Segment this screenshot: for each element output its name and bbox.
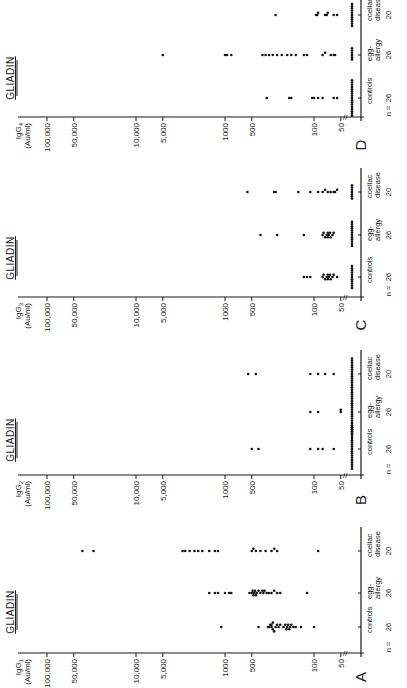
n-label: n = (384, 463, 393, 474)
data-point (276, 550, 279, 553)
axis-break-mark: // (343, 649, 348, 658)
data-point (351, 47, 354, 50)
data-point (193, 550, 196, 553)
data-point (188, 550, 191, 553)
data-point (332, 373, 335, 376)
data-point (309, 191, 312, 194)
data-point (317, 550, 320, 553)
data-point (264, 54, 267, 57)
data-point (290, 54, 293, 57)
data-point (329, 232, 332, 235)
data-point (92, 550, 95, 553)
data-point (273, 548, 276, 551)
group-label: controls (365, 256, 374, 283)
data-point (303, 276, 306, 279)
data-point (251, 590, 254, 593)
figure: //100,00050,00010,0005,000100050010050Ig… (0, 0, 407, 688)
axis-break-mark: // (343, 471, 348, 480)
tick-label: 500 (248, 658, 257, 672)
data-point (247, 373, 250, 376)
data-point (324, 236, 327, 239)
data-point (264, 550, 267, 553)
data-point (276, 624, 279, 627)
data-point (309, 448, 312, 451)
data-point (336, 189, 339, 192)
tick-label: 100,000 (43, 302, 52, 331)
axis-unit: (Au/ml) (23, 123, 32, 149)
data-point (331, 276, 334, 279)
panel-title: GLIADIN (5, 590, 16, 634)
data-point (351, 114, 354, 117)
data-point (324, 373, 327, 376)
group-n: 26 (384, 94, 393, 102)
data-point (317, 12, 320, 15)
group-n: 20 (384, 370, 393, 378)
data-point (306, 592, 309, 595)
group-label: controls (365, 428, 374, 455)
tick-label: 100,000 (43, 658, 52, 687)
tick-label: 100 (310, 122, 319, 136)
data-point (184, 550, 187, 553)
panel-c: //100,00050,00010,0005,000100050010050Ig… (5, 168, 393, 332)
tick-label: 50,000 (70, 302, 79, 327)
data-point (351, 197, 354, 200)
group-label-line2: allergy (373, 577, 382, 599)
panel-letter: C (352, 319, 369, 330)
tick-label: 100,000 (43, 122, 52, 151)
data-point (313, 97, 316, 100)
tick-label: 50,000 (70, 658, 79, 683)
tick-label: 10,000 (132, 658, 141, 683)
panel-d: //100,00050,00010,0005,000100050010050Ig… (5, 0, 393, 152)
data-point (295, 54, 298, 57)
panel-letter: A (352, 672, 369, 682)
group-n: 26 (384, 445, 393, 453)
data-point (317, 448, 320, 451)
data-point (286, 54, 289, 57)
data-point (284, 624, 287, 627)
data-point (265, 592, 268, 595)
data-point (324, 52, 327, 55)
data-point (270, 624, 273, 627)
group-label: controls (365, 77, 374, 104)
data-point (306, 54, 309, 57)
data-point (328, 234, 331, 237)
data-point (272, 621, 275, 624)
group-label-line2: allergy (373, 39, 382, 61)
group-n: 26 (384, 623, 393, 631)
group-label-line2: disease (373, 531, 382, 557)
data-point (255, 373, 258, 376)
data-point (274, 14, 277, 17)
data-point (332, 274, 335, 277)
data-point (327, 191, 330, 194)
tick-label: 500 (248, 122, 257, 136)
tick-label: 100,000 (43, 480, 52, 509)
data-point (329, 54, 332, 57)
data-point (351, 357, 354, 360)
data-point (181, 550, 184, 553)
data-point (268, 54, 271, 57)
data-point (254, 590, 257, 593)
data-point (214, 592, 217, 595)
data-point (162, 54, 165, 57)
data-point (217, 592, 220, 595)
tick-label: 500 (248, 302, 257, 316)
data-point (292, 626, 295, 629)
axis-unit: (Au/ml) (23, 481, 32, 507)
data-point (351, 25, 354, 28)
data-point (251, 448, 254, 451)
data-point (327, 274, 330, 277)
tick-label: 100 (310, 302, 319, 316)
data-point (257, 448, 260, 451)
data-point (309, 373, 312, 376)
data-point (309, 411, 312, 414)
data-point (351, 265, 354, 268)
data-point (270, 550, 273, 553)
data-point (317, 373, 320, 376)
data-point (327, 236, 330, 239)
tick-label: 10,000 (132, 480, 141, 505)
data-point (276, 592, 279, 595)
data-point (317, 411, 320, 414)
data-point (317, 97, 320, 100)
data-point (332, 232, 335, 235)
group-n: 26 (384, 273, 393, 281)
